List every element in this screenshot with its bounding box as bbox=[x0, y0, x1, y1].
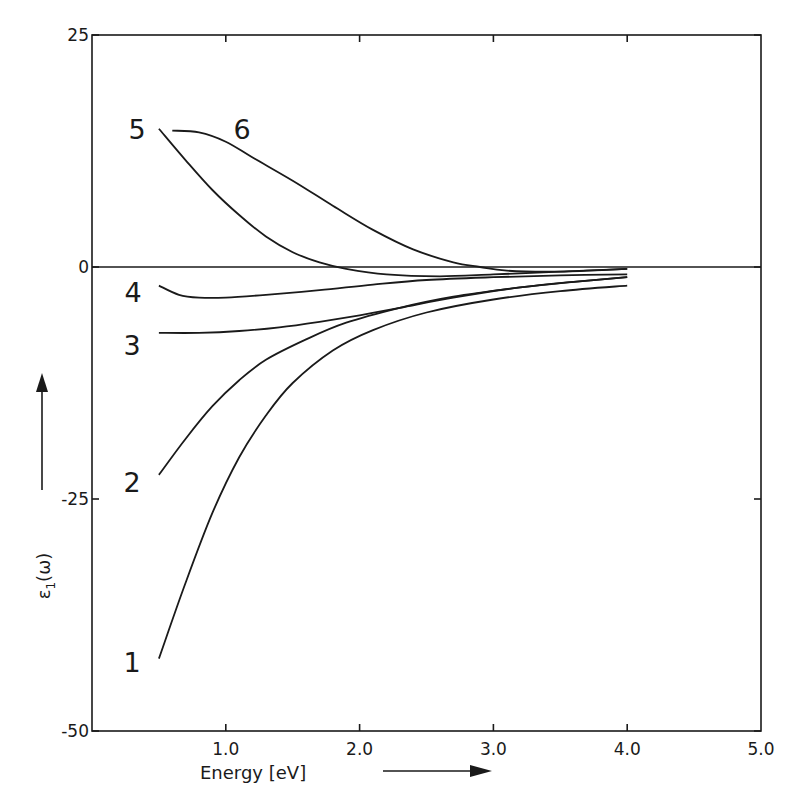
curves bbox=[159, 129, 627, 659]
curve-4 bbox=[159, 274, 627, 298]
x-tick-label: 1.0 bbox=[212, 739, 239, 759]
y-tick-label: -25 bbox=[61, 489, 89, 509]
dielectric-function-chart: 1.02.03.04.05.0 250-25-50 123456 Energy … bbox=[0, 0, 795, 807]
curve-labels: 123456 bbox=[123, 114, 250, 678]
svg-text:ε1(ω): ε1(ω) bbox=[33, 553, 58, 600]
curve-label-5: 5 bbox=[128, 114, 145, 145]
y-tick-label: -50 bbox=[61, 721, 89, 741]
curve-3 bbox=[159, 277, 627, 333]
y-axis-title: ε1(ω) bbox=[33, 553, 58, 600]
curve-label-3: 3 bbox=[123, 330, 140, 361]
curve-label-6: 6 bbox=[233, 114, 250, 145]
x-tick-label: 3.0 bbox=[480, 739, 507, 759]
x-axis-arrow bbox=[383, 765, 492, 777]
x-tick-label: 5.0 bbox=[747, 739, 774, 759]
curve-2 bbox=[159, 277, 627, 475]
plot-frame bbox=[92, 35, 761, 731]
curve-5 bbox=[159, 129, 627, 277]
x-axis-title: Energy [eV] bbox=[200, 762, 306, 783]
y-axis-arrow bbox=[36, 373, 48, 490]
y-tick-label: 0 bbox=[78, 257, 89, 277]
y-tick-label: 25 bbox=[67, 25, 89, 45]
x-tick-label: 4.0 bbox=[614, 739, 641, 759]
x-axis-ticks: 1.02.03.04.05.0 bbox=[212, 35, 774, 759]
curve-label-1: 1 bbox=[123, 647, 140, 678]
curve-label-4: 4 bbox=[124, 277, 141, 308]
x-tick-label: 2.0 bbox=[346, 739, 373, 759]
curve-1 bbox=[159, 286, 627, 659]
y-axis-ticks: 250-25-50 bbox=[61, 25, 761, 741]
curve-label-2: 2 bbox=[123, 467, 140, 498]
curve-6 bbox=[172, 131, 627, 272]
